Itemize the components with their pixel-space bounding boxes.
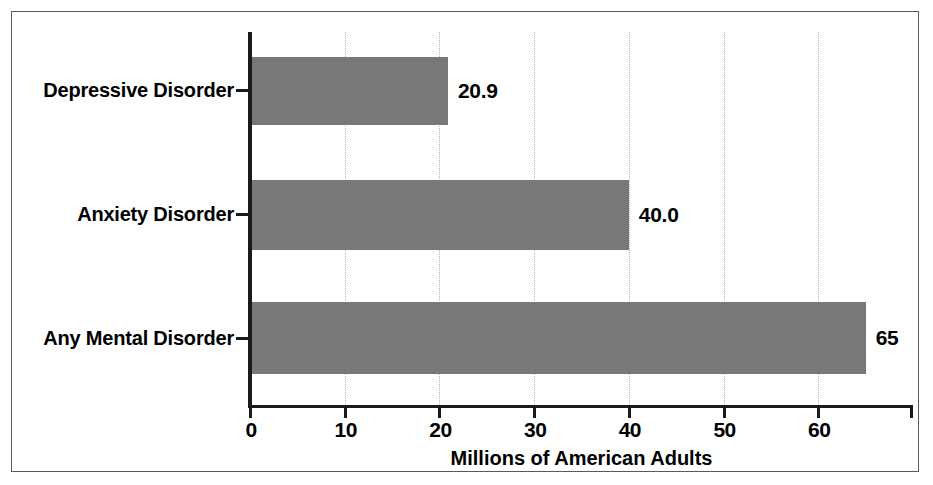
x-axis-tick: [344, 405, 347, 418]
y-axis-tick: [236, 337, 250, 340]
x-axis-line: [248, 405, 913, 408]
y-axis-tick: [236, 213, 250, 216]
x-axis-tick: [249, 405, 252, 418]
bar-depressive-disorder[interactable]: [250, 57, 448, 125]
x-axis-tick: [817, 405, 820, 418]
bar-anxiety-disorder[interactable]: [250, 180, 629, 250]
x-axis-tick: [723, 405, 726, 418]
x-axis-tick-label: 60: [789, 418, 849, 442]
x-axis-tick: [438, 405, 441, 418]
x-axis-tick-label: 0: [221, 418, 281, 442]
x-axis-tick-end: [910, 405, 913, 418]
category-label-anxiety-disorder: Anxiety Disorder: [77, 203, 234, 226]
bar-value-label: 20.9: [458, 79, 498, 103]
bar-row: 65: [250, 302, 913, 374]
x-axis-tick: [628, 405, 631, 418]
x-axis-tick: [533, 405, 536, 418]
x-axis-tick-label: 40: [600, 418, 660, 442]
y-axis-tick: [236, 89, 250, 92]
bar-value-label: 40.0: [639, 203, 679, 227]
category-label-any-mental-disorder: Any Mental Disorder: [43, 327, 234, 350]
x-axis-tick-label: 30: [505, 418, 565, 442]
x-axis-tick-label: 50: [695, 418, 755, 442]
bar-any-mental-disorder[interactable]: [250, 302, 866, 374]
plot-area: 20.9 40.0 65: [250, 32, 913, 405]
bar-row: 20.9: [250, 57, 913, 125]
x-axis-tick-label: 20: [410, 418, 470, 442]
figure: 20.9 40.0 65 Depressive Disorder Anxiety…: [0, 0, 933, 485]
bar-value-label: 65: [876, 326, 899, 350]
x-axis-title: Millions of American Adults: [250, 447, 913, 470]
bar-row: 40.0: [250, 180, 913, 250]
category-label-depressive-disorder: Depressive Disorder: [43, 79, 234, 102]
x-axis-tick-label: 10: [316, 418, 376, 442]
